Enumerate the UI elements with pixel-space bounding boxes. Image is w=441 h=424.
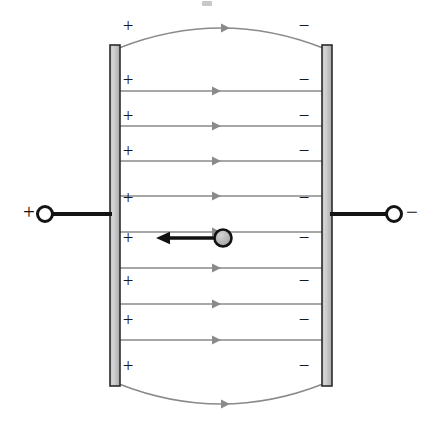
negative-plate-sign-2: − bbox=[299, 69, 310, 90]
negative-plate-sign-8: − bbox=[299, 309, 310, 330]
positive-plate-sign-6: + bbox=[123, 227, 134, 248]
negative-terminal-node[interactable] bbox=[387, 207, 402, 222]
positive-plate-sign-5: + bbox=[123, 187, 134, 208]
positive-plate-sign-3: + bbox=[123, 105, 134, 126]
negative-plate-sign-7: − bbox=[299, 270, 310, 291]
positive-plate-sign-9: + bbox=[123, 355, 134, 376]
negative-plate-sign-9: − bbox=[299, 355, 310, 376]
moving-charge[interactable] bbox=[215, 230, 232, 247]
capacitor-diagram-canvas: +− +++++++++−−−−−−−−− bbox=[0, 0, 441, 424]
negative-plate-sign-5: − bbox=[299, 187, 310, 208]
positive-plate-sign-4: + bbox=[123, 140, 134, 161]
positive-plate-sign-8: + bbox=[123, 309, 134, 330]
negative-plate-sign-3: − bbox=[299, 105, 310, 126]
negative-plate-sign-4: − bbox=[299, 140, 310, 161]
positive-terminal-label: + bbox=[23, 200, 35, 224]
top-edge-artifact bbox=[202, 1, 212, 6]
positive-terminal-node[interactable] bbox=[38, 207, 53, 222]
top-edge-artifact bbox=[202, 1, 212, 6]
negative-terminal-label: − bbox=[406, 200, 418, 224]
positive-plate-sign-2: + bbox=[123, 69, 134, 90]
positive-plate-sign-7: + bbox=[123, 270, 134, 291]
positive-plate-sign-1: + bbox=[123, 15, 134, 36]
negative-plate-sign-6: − bbox=[299, 227, 310, 248]
capacitor-figure: +− +++++++++−−−−−−−−− bbox=[0, 0, 441, 424]
negative-plate-sign-1: − bbox=[299, 15, 310, 36]
